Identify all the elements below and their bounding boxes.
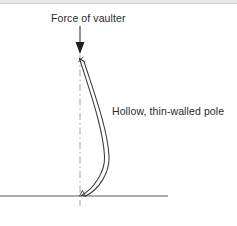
pole-wall-right [84,62,109,197]
force-of-vaulter-label: Force of vaulter [51,12,126,24]
figure-canvas: Force of vaulter Hollow, thin-walled pol… [0,0,237,226]
hollow-thin-walled-pole-label: Hollow, thin-walled pole [112,105,224,117]
pole-wall-left [80,59,105,196]
force-arrow-head-icon [76,42,85,54]
